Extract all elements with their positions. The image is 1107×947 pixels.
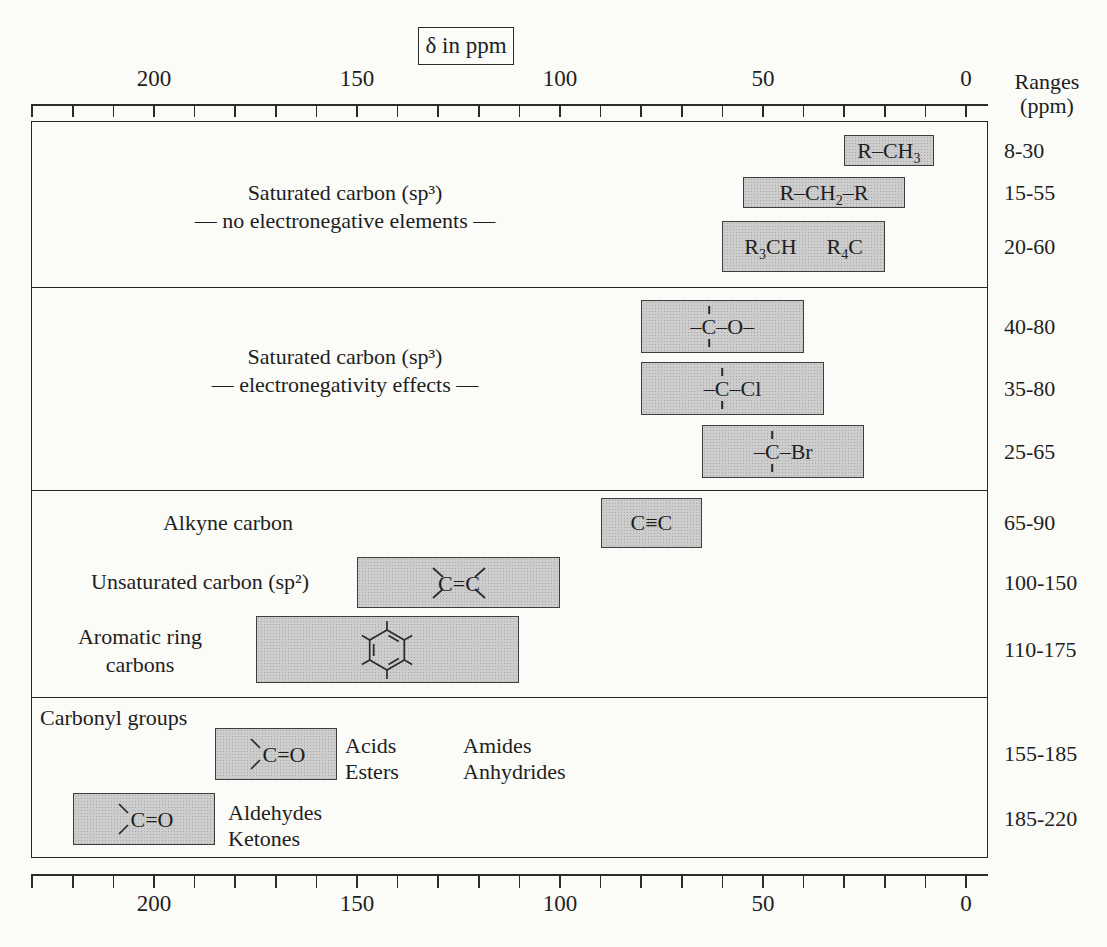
axis-tick (884, 874, 886, 888)
formula-segment: – (704, 376, 715, 401)
label-line: Unsaturated carbon (sp²) (91, 568, 309, 596)
axis-tick (843, 104, 845, 117)
bar-formula: R–CH2–R (779, 182, 868, 204)
bond-line (362, 660, 370, 665)
axis-tick (113, 874, 115, 888)
bar-formula: R3CHR4C (744, 236, 863, 258)
axis-tick-label: 150 (319, 891, 395, 917)
bond-line (251, 739, 260, 748)
formula-segment: 2 (836, 193, 843, 208)
bond-line (405, 660, 413, 665)
bond-line (362, 635, 370, 640)
axis-tick-label: 100 (522, 66, 598, 92)
bond-line (119, 804, 128, 813)
range-bar-r-ch3: R–CH3 (844, 135, 933, 166)
range-label-r3ch-r4c: 20-60 (1004, 233, 1055, 261)
bond-line (119, 825, 128, 834)
range-bar-c-cl: –C–Cl (641, 362, 824, 415)
carbonyl-structure: C=O (239, 732, 313, 776)
range-bar-carbonyl-acids: C=O (215, 728, 337, 780)
range-label-aromatic: 110-175 (1004, 636, 1077, 664)
label-line: — electronegativity effects — (212, 371, 479, 399)
axis-tick (965, 104, 967, 117)
formula-segment: C (848, 234, 863, 259)
axis-tick (843, 874, 845, 888)
text-amides: AmidesAnhydrides (463, 733, 566, 785)
formula-segment: –Br (780, 439, 813, 464)
bond-line (370, 630, 387, 640)
axis-tick (884, 104, 886, 117)
axis-tick (275, 104, 277, 117)
axis-tick (437, 874, 439, 888)
axis-tick (559, 874, 561, 888)
formula-segment: – (754, 439, 765, 464)
axis-tick (356, 104, 358, 117)
axis-tick (234, 874, 236, 888)
axis-tick (113, 104, 115, 117)
formula-segment: –O– (716, 314, 754, 339)
axis-tick (72, 104, 74, 117)
axis-tick (397, 874, 399, 888)
label-line: Aromatic ring (78, 623, 202, 651)
formula-segment: R (827, 234, 842, 259)
c13-nmr-shift-chart: δ in ppm Ranges (ppm) 200150100500 20015… (0, 0, 1107, 947)
axis-tick (31, 874, 33, 888)
range-label-carbonyl-acids: 155-185 (1004, 740, 1077, 768)
axis-tick (316, 874, 318, 888)
bond-line (387, 630, 404, 640)
axis-tick (722, 104, 724, 117)
range-label-alkyne: 65-90 (1004, 509, 1055, 537)
axis-tick (194, 104, 196, 117)
axis-tick (722, 874, 724, 888)
axis-tick (559, 104, 561, 117)
structure-text: C=O (130, 807, 173, 832)
label-line: — no electronegative elements — (195, 207, 496, 235)
axis-tick (640, 104, 642, 117)
axis-tick (153, 104, 155, 117)
formula-segment: –R (843, 180, 869, 205)
axis-tick (681, 104, 683, 117)
text-line: Anhydrides (463, 759, 566, 785)
range-label-c-br: 25-65 (1004, 438, 1055, 466)
formula-segment: –Cl (729, 376, 761, 401)
label-alkyne-label: Alkyne carbon (163, 509, 293, 537)
axis-tick (275, 874, 277, 888)
axis-tick-label: 100 (522, 891, 598, 917)
axis-tick (356, 874, 358, 888)
formula-segment: 3 (759, 247, 766, 262)
range-label-r-ch2-r: 15-55 (1004, 179, 1055, 207)
carbon-with-bonds: C (715, 378, 730, 400)
text-acids: AcidsEsters (345, 733, 399, 785)
section-divider (31, 697, 988, 698)
range-bar-aromatic (256, 616, 520, 683)
ranges-header-line2: (ppm) (1002, 94, 1092, 118)
axis-tick (925, 874, 927, 888)
axis-tick (234, 104, 236, 117)
text-carbonyl-header: Carbonyl groups (40, 705, 187, 731)
axis-tick (681, 874, 683, 888)
structure-text: C=C (438, 570, 480, 595)
carbon-with-bonds: C (702, 316, 717, 338)
formula-segment: CH (766, 234, 797, 259)
axis-tick (519, 104, 521, 117)
label-line: Saturated carbon (sp³) (195, 179, 496, 207)
axis-tick-label: 150 (319, 66, 395, 92)
text-aldehydes: AldehydesKetones (228, 800, 322, 852)
axis-tick (803, 104, 805, 117)
text-line: Acids (345, 733, 399, 759)
formula-segment: R (744, 234, 759, 259)
axis-tick (762, 104, 764, 117)
formula-segment: – (691, 314, 702, 339)
carbonyl-structure: C=O (107, 797, 181, 841)
ranges-header-line1: Ranges (1002, 70, 1092, 94)
section-divider (31, 287, 988, 288)
carbon-with-bonds: C (765, 441, 780, 463)
formula-segment: 3 (913, 151, 920, 166)
formula-segment: C≡C (630, 510, 672, 535)
axis-tick-label: 0 (928, 891, 1004, 917)
axis-tick (316, 104, 318, 117)
axis-tick (153, 874, 155, 888)
bond-line (370, 660, 387, 670)
section-divider (31, 490, 988, 491)
bond-line (405, 635, 413, 640)
